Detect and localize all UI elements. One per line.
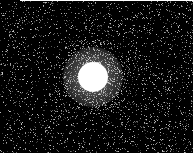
bright-source (78, 62, 108, 92)
top-left-notch (0, 0, 20, 2)
dark-field (0, 1, 193, 153)
image-frame (0, 0, 195, 160)
